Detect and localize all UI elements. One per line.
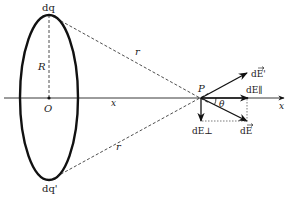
label-distance-upper: r	[135, 46, 141, 57]
label-axis-distance: x	[111, 98, 116, 108]
label-field: dE	[240, 126, 252, 136]
field-vector-prime	[201, 73, 247, 98]
label-distance-lower: r	[116, 141, 122, 152]
label-axis: x	[279, 101, 284, 111]
label-field-perp: dE⊥	[192, 126, 213, 136]
ring-field-diagram: dq dq' R O r r x P θ x dE' dE∥ dE⊥ dE	[0, 0, 289, 197]
label-charge-top: dq	[42, 2, 55, 13]
center-point	[47, 96, 50, 99]
label-point: P	[197, 83, 205, 94]
label-field-parallel: dE∥	[246, 85, 263, 95]
label-angle: θ	[219, 99, 225, 109]
label-center: O	[44, 103, 52, 114]
angle-arc	[215, 98, 217, 105]
label-field-prime: dE'	[251, 69, 266, 79]
label-radius: R	[37, 61, 46, 72]
label-charge-bottom: dq'	[42, 183, 58, 194]
